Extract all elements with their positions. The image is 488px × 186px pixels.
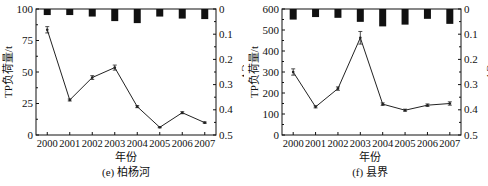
- chart-plot-f: 010020030040050060000.10.20.30.40.520002…: [244, 0, 488, 150]
- data-point: [46, 28, 49, 31]
- data-point: [68, 99, 71, 102]
- y-tick-label: 0: [28, 129, 34, 141]
- y-tick-label: 300: [263, 66, 280, 78]
- tp-load-line: [293, 38, 450, 110]
- chart-panel-e: 025507510000.10.20.30.40.520002001200220…: [0, 0, 244, 186]
- cv-bar: [312, 9, 319, 17]
- y2-tick-label: 0.2: [464, 53, 478, 65]
- data-point: [449, 102, 452, 105]
- chart-panel-f: 010020030040050060000.10.20.30.40.520002…: [244, 0, 488, 186]
- y-tick-label: 50: [22, 66, 34, 78]
- data-point: [181, 111, 184, 114]
- cv-bar: [446, 9, 453, 24]
- y2-tick-label: 0.2: [219, 53, 233, 65]
- chart-caption: (e) 柏杨河: [0, 163, 252, 179]
- y2-tick-label: 0: [219, 3, 225, 15]
- cv-bar: [179, 9, 186, 19]
- data-point: [404, 109, 407, 112]
- y-tick-label: 100: [17, 3, 34, 15]
- x-axis-label: 年份: [0, 148, 252, 164]
- cv-bar: [424, 9, 431, 19]
- y-axis-label: TP负荷量/t: [1, 46, 14, 98]
- y-tick-label: 600: [263, 3, 280, 15]
- cv-bar: [290, 9, 297, 20]
- y2-tick-label: 0.4: [219, 103, 233, 115]
- cv-bar: [66, 9, 73, 15]
- y-tick-label: 400: [263, 45, 280, 57]
- data-point: [359, 36, 362, 39]
- y2-tick-label: 0.3: [464, 78, 478, 90]
- y-tick-label: 100: [263, 108, 280, 120]
- y-tick-label: 500: [263, 24, 280, 36]
- data-point: [337, 87, 340, 90]
- y-tick-label: 200: [263, 87, 280, 99]
- data-point: [91, 76, 94, 79]
- y2-tick-label: 0.5: [219, 129, 233, 141]
- cv-bar: [111, 9, 118, 21]
- y2-tick-label: 0.5: [464, 129, 478, 141]
- y2-tick-label: 0: [464, 3, 470, 15]
- y2-tick-label: 0.1: [464, 28, 478, 40]
- data-point: [136, 105, 139, 108]
- chart-caption: (f) 县界: [244, 163, 488, 179]
- data-point: [381, 103, 384, 106]
- data-point: [292, 71, 295, 74]
- y-tick-label: 25: [22, 97, 34, 109]
- y2-tick-label: 0.4: [464, 103, 478, 115]
- data-point: [158, 126, 161, 129]
- data-point: [314, 106, 317, 109]
- cv-bar: [379, 9, 386, 26]
- cv-bar: [334, 9, 341, 18]
- cv-bar: [134, 9, 141, 23]
- cv-bar: [89, 9, 96, 17]
- cv-bar: [402, 9, 409, 25]
- cv-bar: [44, 9, 51, 15]
- data-point: [203, 121, 206, 124]
- chart-plot-e: 025507510000.10.20.30.40.520002001200220…: [0, 0, 244, 150]
- data-point: [113, 66, 116, 69]
- y2-tick-label: 0.3: [219, 78, 233, 90]
- y-axis-label: TP负荷量/t: [247, 46, 260, 98]
- y-tick-label: 0: [274, 129, 280, 141]
- cv-bar: [357, 9, 364, 22]
- y-tick-label: 75: [22, 34, 34, 46]
- cv-bar: [201, 9, 208, 19]
- data-point: [426, 104, 429, 107]
- x-axis-label: 年份: [244, 148, 488, 164]
- cv-bar: [156, 9, 163, 17]
- y2-tick-label: 0.1: [219, 28, 233, 40]
